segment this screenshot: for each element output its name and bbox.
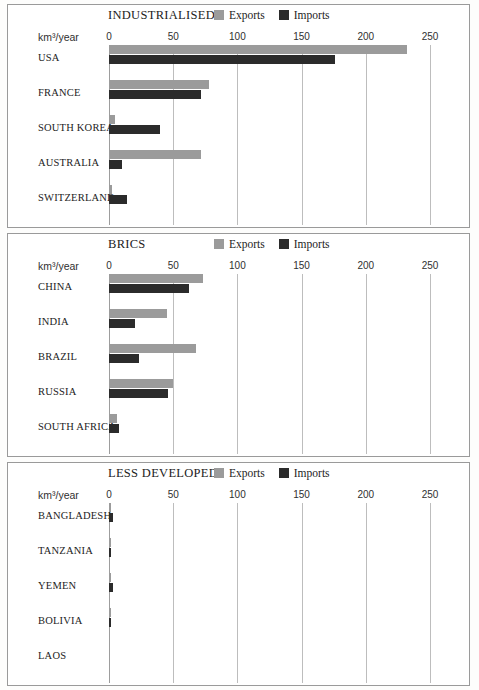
category-label: AUSTRALIA	[38, 157, 99, 168]
chart-panel-less-developed: LESS DEVELOPEDExportsImportskm³/year0501…	[7, 462, 470, 686]
bar-exports	[109, 115, 115, 124]
x-tick-label: 200	[357, 31, 374, 42]
x-tick-label: 100	[229, 260, 246, 271]
category-label: SOUTH KOREA	[38, 122, 114, 133]
x-tick-label: 0	[106, 260, 112, 271]
bar-imports	[109, 548, 111, 557]
gridline	[302, 503, 303, 683]
gridline	[430, 274, 431, 454]
gridline	[366, 274, 367, 454]
legend-label: Exports	[229, 9, 265, 21]
x-tick-label: 200	[357, 260, 374, 271]
panel-header: INDUSTRIALISEDExportsImports	[8, 5, 469, 27]
legend-swatch-imports-icon	[279, 10, 289, 20]
category-label: CHINA	[38, 281, 72, 292]
bar-imports	[109, 618, 111, 627]
bar-imports	[109, 284, 189, 293]
gridline	[430, 45, 431, 225]
bar-exports	[109, 150, 201, 159]
bar-exports	[109, 379, 173, 388]
bar-exports	[109, 274, 203, 283]
x-tick-label: 0	[106, 31, 112, 42]
bar-imports	[109, 160, 122, 169]
legend-item-exports: Exports	[214, 9, 265, 21]
category-label: SWITZERLAND	[38, 192, 115, 203]
bar-imports	[109, 583, 113, 592]
legend-label: Exports	[229, 467, 265, 479]
category-label: YEMEN	[38, 580, 76, 591]
bar-imports	[109, 125, 160, 134]
x-tick-label: 150	[293, 31, 310, 42]
category-label: BOLIVIA	[38, 615, 83, 626]
legend-label: Exports	[229, 238, 265, 250]
legend-label: Imports	[294, 467, 330, 479]
category-label: FRANCE	[38, 87, 81, 98]
bar-imports	[109, 354, 139, 363]
bar-exports	[109, 80, 209, 89]
x-tick-label: 50	[168, 489, 179, 500]
gridline	[237, 274, 238, 454]
panel-title: INDUSTRIALISED	[108, 8, 215, 23]
category-label: TANZANIA	[38, 545, 93, 556]
bar-imports	[109, 389, 168, 398]
legend-item-exports: Exports	[214, 467, 265, 479]
x-tick-label: 250	[422, 260, 439, 271]
figure-root: INDUSTRIALISEDExportsImportskm³/year0501…	[0, 0, 479, 690]
panel-title: BRICS	[108, 237, 146, 252]
gridline	[366, 503, 367, 683]
bar-exports	[109, 538, 111, 547]
category-label: RUSSIA	[38, 386, 77, 397]
legend-swatch-exports-icon	[214, 239, 224, 249]
bar-exports	[109, 45, 407, 54]
bar-exports	[109, 414, 117, 423]
category-label: BANGLADESH	[38, 510, 111, 521]
legend-swatch-exports-icon	[214, 10, 224, 20]
legend-swatch-exports-icon	[214, 468, 224, 478]
gridline	[109, 503, 110, 683]
gridline	[173, 45, 174, 225]
panel-title: LESS DEVELOPED	[108, 466, 218, 481]
x-tick-label: 250	[422, 31, 439, 42]
axis-unit-label: km³/year	[38, 489, 79, 501]
x-tick-label: 150	[293, 260, 310, 271]
x-tick-label: 150	[293, 489, 310, 500]
category-label: SOUTH AFRICA	[38, 421, 116, 432]
gridline	[430, 503, 431, 683]
chart-legend: ExportsImports	[214, 9, 330, 21]
category-label: BRAZIL	[38, 351, 77, 362]
legend-item-imports: Imports	[279, 238, 330, 250]
chart-legend: ExportsImports	[214, 467, 330, 479]
x-tick-label: 50	[168, 31, 179, 42]
bar-imports	[109, 424, 119, 433]
legend-label: Imports	[294, 238, 330, 250]
x-tick-label: 100	[229, 489, 246, 500]
category-label: INDIA	[38, 316, 69, 327]
bar-exports	[109, 309, 167, 318]
chart-legend: ExportsImports	[214, 238, 330, 250]
bar-exports	[109, 503, 111, 512]
legend-item-exports: Exports	[214, 238, 265, 250]
x-tick-label: 100	[229, 31, 246, 42]
gridline	[237, 45, 238, 225]
x-tick-label: 50	[168, 260, 179, 271]
gridline	[366, 45, 367, 225]
bar-imports	[109, 90, 201, 99]
plot-area	[8, 503, 469, 683]
category-label: USA	[38, 52, 60, 63]
bar-imports	[109, 55, 335, 64]
panel-header: LESS DEVELOPEDExportsImports	[8, 463, 469, 485]
chart-panel-industrialised: INDUSTRIALISEDExportsImportskm³/year0501…	[7, 4, 470, 228]
legend-item-imports: Imports	[279, 467, 330, 479]
x-tick-label: 250	[422, 489, 439, 500]
legend-swatch-imports-icon	[279, 239, 289, 249]
bar-exports	[109, 573, 111, 582]
gridline	[237, 503, 238, 683]
gridline	[173, 274, 174, 454]
panel-header: BRICSExportsImports	[8, 234, 469, 256]
bar-imports	[109, 195, 127, 204]
legend-item-imports: Imports	[279, 9, 330, 21]
bar-exports	[109, 185, 112, 194]
chart-panel-brics: BRICSExportsImportskm³/year0501001502002…	[7, 233, 470, 457]
axis-unit-label: km³/year	[38, 31, 79, 43]
gridline	[173, 503, 174, 683]
